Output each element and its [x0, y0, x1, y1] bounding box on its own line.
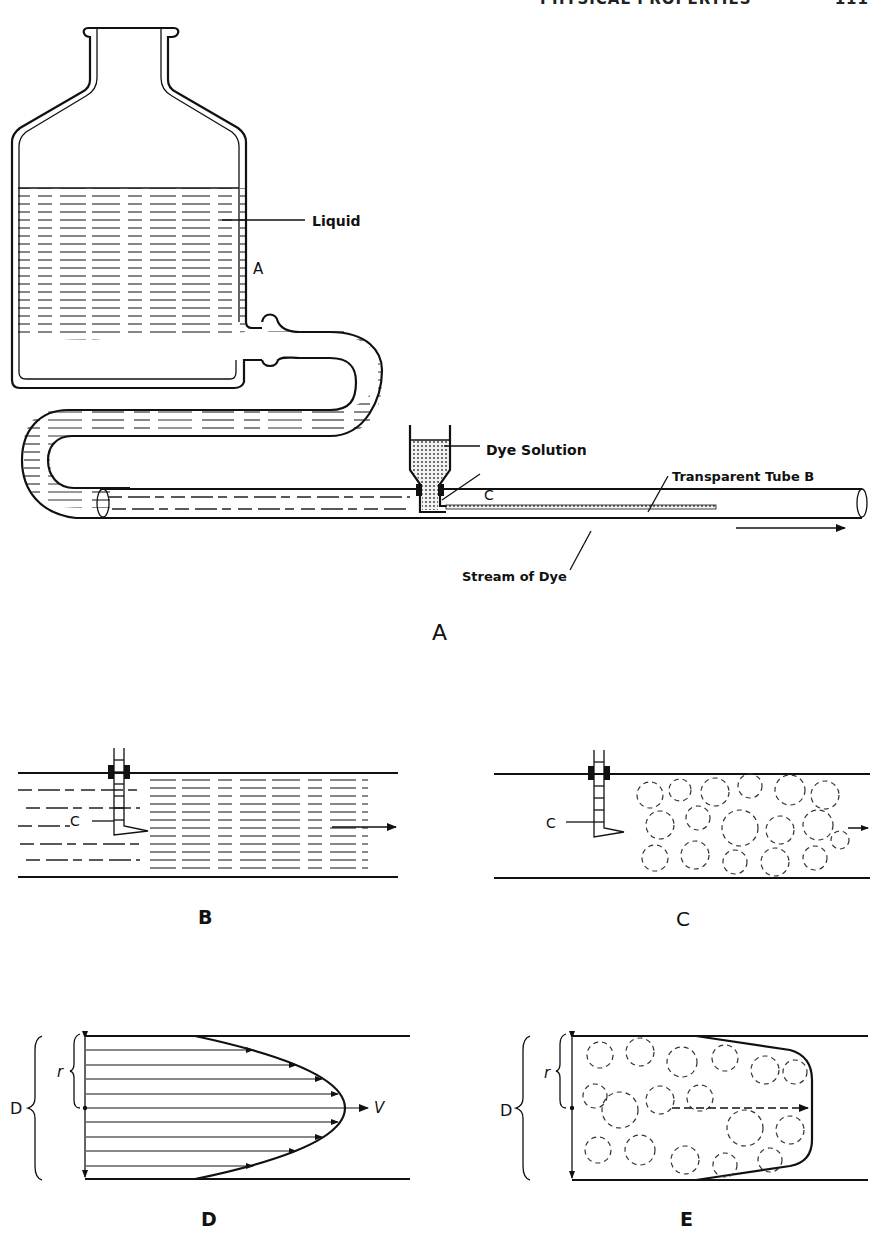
caption-b: B: [198, 906, 212, 928]
label-diameter-d-e: D: [500, 1101, 512, 1120]
figure-e-turbulent-profile: [516, 1034, 868, 1180]
caption-d: D: [201, 1208, 217, 1230]
label-liquid: Liquid: [312, 213, 361, 229]
figure-c-turbulent: [494, 750, 870, 878]
label-transparent-tube: Transparent Tube B: [672, 469, 814, 484]
figure-a-apparatus: [12, 28, 867, 570]
label-radius-r: r: [57, 1063, 64, 1081]
label-diameter-d: D: [10, 1099, 22, 1118]
caption-e: E: [680, 1208, 693, 1230]
caption-a: A: [432, 620, 447, 645]
brace-radius: [70, 1034, 80, 1108]
label-injector-c: C: [484, 487, 494, 503]
bottle-liquid: [18, 188, 245, 340]
label-injector-c-b: C: [70, 813, 80, 829]
label-stream-of-dye: Stream of Dye: [462, 569, 567, 584]
label-dye-solution: Dye Solution: [486, 442, 587, 458]
label-velocity-v: V: [374, 1099, 386, 1117]
dye-stream: [446, 505, 716, 509]
brace-diameter: [28, 1036, 42, 1180]
label-radius-r-e: r: [544, 1064, 551, 1082]
label-point-a: A: [253, 260, 264, 278]
figure-d-velocity-profile: [28, 1034, 410, 1180]
turbulent-eddies: [637, 774, 849, 876]
figure-canvas: Liquid A Dye Solution C Transparent Tube…: [0, 0, 889, 1234]
pipe-outer-top: [48, 315, 382, 489]
caption-c: C: [676, 907, 690, 931]
label-injector-c-c: C: [546, 815, 556, 831]
